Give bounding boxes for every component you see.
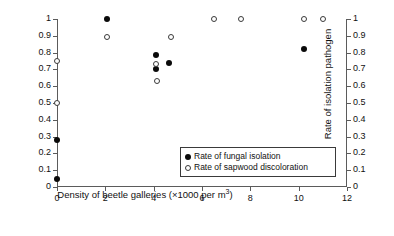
- y-axis-right-tick: [347, 36, 351, 37]
- data-point-sapwood-discoloration: [168, 34, 174, 40]
- y-axis-right-tick-label: 0.3: [353, 132, 383, 141]
- x-axis-title: Density of beetle galleries (×1000 per m…: [57, 188, 232, 200]
- y-axis-right-tick: [347, 137, 351, 138]
- y-axis-left-tick-label: 0.7: [21, 64, 51, 73]
- data-point-sapwood-discoloration: [238, 16, 244, 22]
- y-axis-left-tick: [53, 86, 57, 87]
- y-axis-right-tick: [347, 53, 351, 54]
- y-axis-right-tick-label: 0.2: [353, 148, 383, 157]
- y-axis-left-tick-label: 0.6: [21, 81, 51, 90]
- data-point-sapwood-discoloration: [154, 78, 160, 84]
- data-point-fungal-isolation: [104, 16, 110, 22]
- y-axis-right-tick: [347, 103, 351, 104]
- data-point-sapwood-discoloration: [54, 58, 60, 64]
- x-axis-tick-label: 8: [235, 194, 265, 203]
- y-axis-right-tick: [347, 120, 351, 121]
- y-axis-right-tick-label: 0.5: [353, 98, 383, 107]
- data-point-sapwood-discoloration: [54, 100, 60, 106]
- x-axis-tick: [347, 187, 348, 191]
- y-axis-left-tick-label: 0.8: [21, 48, 51, 57]
- y-axis-right-tick: [347, 170, 351, 171]
- y-axis-right-tick: [347, 19, 351, 20]
- y-axis-left-tick: [53, 36, 57, 37]
- x-axis-title-base: Density of beetle galleries (×1000 per m: [57, 189, 225, 200]
- y-axis-left-tick-label: 0.2: [21, 148, 51, 157]
- y-axis-right-tick-label: 1: [353, 14, 383, 23]
- y-axis-right-tick: [347, 153, 351, 154]
- legend-entry-sapwood-discoloration: Rate of sapwood discoloration: [185, 162, 331, 173]
- y-axis-left-tick: [53, 53, 57, 54]
- x-axis-tick: [250, 187, 251, 191]
- y-axis-right-tick-label: 0.6: [353, 81, 383, 90]
- x-axis-tick: [299, 187, 300, 191]
- y-axis-right-tick-label: 0.4: [353, 115, 383, 124]
- data-point-sapwood-discoloration: [320, 16, 326, 22]
- data-point-fungal-isolation: [153, 52, 159, 58]
- y-axis-right-tick-label: 0.9: [353, 31, 383, 40]
- legend-label: Rate of sapwood discoloration: [194, 162, 308, 173]
- data-point-fungal-isolation: [54, 176, 60, 182]
- y-axis-right-tick-label: 0: [353, 182, 383, 191]
- filled-circle-icon: [185, 154, 191, 160]
- x-axis-tick-label: 10: [284, 194, 314, 203]
- y-axis-left-tick: [53, 153, 57, 154]
- data-point-sapwood-discoloration: [211, 16, 217, 22]
- y-axis-left-tick: [53, 120, 57, 121]
- open-circle-icon: [185, 165, 191, 171]
- y-axis-left-tick-label: 0.9: [21, 31, 51, 40]
- x-axis-tick-label: 12: [332, 194, 362, 203]
- y-axis-right-tick-label: 0.8: [353, 48, 383, 57]
- data-point-fungal-isolation: [153, 66, 159, 72]
- y-axis-left-tick-label: 0.4: [21, 115, 51, 124]
- data-point-sapwood-discoloration: [301, 16, 307, 22]
- y-axis-left-tick: [53, 69, 57, 70]
- y-axis-left-tick-label: 1: [21, 14, 51, 23]
- data-point-fungal-isolation: [166, 60, 172, 66]
- y-axis-left-tick-label: 0.5: [21, 98, 51, 107]
- data-point-sapwood-discoloration: [153, 61, 159, 67]
- chart-legend: Rate of fungal isolation Rate of sapwood…: [180, 147, 336, 177]
- data-point-fungal-isolation: [54, 137, 60, 143]
- y-axis-left-tick-label: 0.1: [21, 165, 51, 174]
- y-axis-left-tick: [53, 170, 57, 171]
- legend-label: Rate of fungal isolation: [194, 151, 280, 162]
- y-axis-right-tick: [347, 69, 351, 70]
- x-axis-title-tail: ): [229, 189, 232, 200]
- data-point-fungal-isolation: [301, 46, 307, 52]
- y-axis-left-tick-label: 0: [21, 182, 51, 191]
- y-axis-right-tick-label: 0.1: [353, 165, 383, 174]
- y-axis-left-tick: [53, 19, 57, 20]
- y-axis-left-tick-label: 0.3: [21, 132, 51, 141]
- scatter-chart-figure: 00.10.20.30.40.50.60.70.80.91 00.10.20.3…: [0, 0, 394, 236]
- y-axis-right-tick: [347, 86, 351, 87]
- legend-entry-fungal-isolation: Rate of fungal isolation: [185, 151, 331, 162]
- data-point-sapwood-discoloration: [104, 34, 110, 40]
- y-axis-right-tick-label: 0.7: [353, 64, 383, 73]
- y-axis-right-title: Rate of isolation pathogen: [322, 29, 333, 139]
